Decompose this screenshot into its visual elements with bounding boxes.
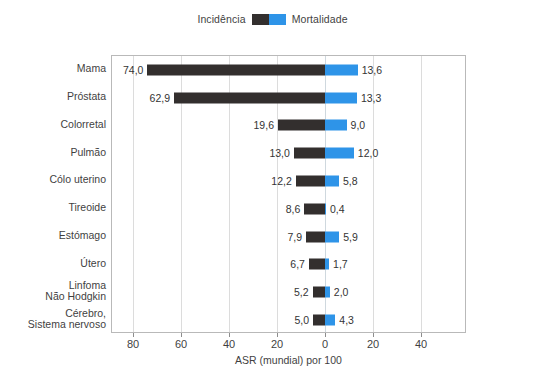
category-label: Tireoide bbox=[0, 202, 106, 214]
incidence-value-label: 6,7 bbox=[290, 259, 305, 270]
mortality-value-label: 1,7 bbox=[333, 259, 348, 270]
category-label: Colorretal bbox=[0, 119, 106, 131]
mortality-bar bbox=[325, 203, 326, 214]
chart-row: 6,71,7 bbox=[112, 251, 465, 279]
x-tick-label: 60 bbox=[175, 338, 187, 350]
mortality-bar bbox=[325, 231, 339, 242]
incidence-bar bbox=[294, 148, 325, 159]
incidence-bar bbox=[147, 64, 325, 75]
legend-label-incidence: Incidência bbox=[197, 13, 245, 25]
mortality-value-label: 13,3 bbox=[361, 92, 381, 103]
mortality-value-label: 0,4 bbox=[330, 204, 345, 215]
mortality-bar bbox=[325, 120, 347, 131]
chart-row: 7,95,9 bbox=[112, 223, 465, 251]
incidence-value-label: 13,0 bbox=[269, 148, 289, 159]
incidence-value-label: 62,9 bbox=[150, 92, 170, 103]
x-tick-mark bbox=[325, 333, 326, 337]
mortality-value-label: 5,9 bbox=[343, 231, 358, 242]
mortality-color-swatch-icon bbox=[269, 14, 286, 25]
chart-legend: Incidência Mortalidade bbox=[0, 13, 545, 25]
legend-label-mortality: Mortalidade bbox=[292, 13, 348, 25]
incidence-bar bbox=[309, 259, 325, 270]
mortality-value-label: 5,8 bbox=[343, 176, 358, 187]
x-tick-label: 80 bbox=[127, 338, 139, 350]
incidence-bar bbox=[313, 287, 325, 298]
incidence-value-label: 5,2 bbox=[294, 287, 309, 298]
chart-row: 8,60,4 bbox=[112, 195, 465, 223]
category-label: Cérebro, Sistema nervoso bbox=[0, 308, 106, 331]
incidence-bar bbox=[174, 92, 325, 103]
legend-swatch-group bbox=[252, 14, 286, 25]
x-tick-mark bbox=[229, 333, 230, 337]
mortality-bar bbox=[325, 64, 358, 75]
figure-caption bbox=[6, 378, 539, 387]
chart-plot-area: 74,013,662,913,319,69,013,012,012,25,88,… bbox=[111, 55, 466, 333]
chart-row: 12,25,8 bbox=[112, 167, 465, 195]
mortality-value-label: 12,0 bbox=[358, 148, 378, 159]
category-label: Mama bbox=[0, 63, 106, 75]
x-tick-label: 20 bbox=[367, 338, 379, 350]
category-label: Útero bbox=[0, 258, 106, 270]
incidence-bar bbox=[313, 315, 325, 326]
mortality-bar bbox=[325, 92, 357, 103]
category-label: Próstata bbox=[0, 91, 106, 103]
category-label: Linfoma Não Hodgkin bbox=[0, 280, 106, 303]
x-tick-mark bbox=[181, 333, 182, 337]
mortality-value-label: 9,0 bbox=[351, 120, 366, 131]
incidence-bar bbox=[278, 120, 325, 131]
x-tick-mark bbox=[277, 333, 278, 337]
incidence-bar bbox=[304, 203, 325, 214]
category-axis-labels: MamaPróstataColorretalPulmãoCólo uterino… bbox=[0, 55, 106, 333]
mortality-bar bbox=[325, 259, 329, 270]
x-tick-mark bbox=[133, 333, 134, 337]
mortality-bar bbox=[325, 176, 339, 187]
chart-row: 19,69,0 bbox=[112, 112, 465, 140]
incidence-bar bbox=[306, 231, 325, 242]
category-label: Pulmão bbox=[0, 147, 106, 159]
x-tick-label: 40 bbox=[415, 338, 427, 350]
mortality-bar bbox=[325, 148, 354, 159]
x-tick-mark bbox=[421, 333, 422, 337]
category-label: Cólo uterino bbox=[0, 174, 106, 186]
incidence-value-label: 8,6 bbox=[286, 204, 301, 215]
mortality-bar bbox=[325, 315, 335, 326]
x-tick-label: 40 bbox=[223, 338, 235, 350]
mortality-value-label: 2,0 bbox=[334, 287, 349, 298]
incidence-value-label: 7,9 bbox=[287, 231, 302, 242]
chart-row: 5,22,0 bbox=[112, 278, 465, 306]
incidence-bar bbox=[296, 176, 325, 187]
category-label: Estómago bbox=[0, 230, 106, 242]
x-tick-label: 20 bbox=[271, 338, 283, 350]
x-tick-label: 0 bbox=[322, 338, 328, 350]
chart-row: 74,013,6 bbox=[112, 56, 465, 84]
incidence-value-label: 5,0 bbox=[294, 315, 309, 326]
incidence-color-swatch-icon bbox=[252, 14, 269, 25]
chart-row: 5,04,3 bbox=[112, 306, 465, 334]
incidence-value-label: 74,0 bbox=[123, 65, 143, 76]
x-axis-ticks: 8060402002040 bbox=[111, 333, 466, 353]
mortality-value-label: 13,6 bbox=[362, 65, 382, 76]
chart-row: 13,012,0 bbox=[112, 139, 465, 167]
x-axis-title: ASR (mundial) por 100 bbox=[111, 354, 466, 366]
mortality-bar bbox=[325, 287, 330, 298]
chart-row: 62,913,3 bbox=[112, 84, 465, 112]
incidence-value-label: 12,2 bbox=[271, 176, 291, 187]
mortality-value-label: 4,3 bbox=[339, 315, 354, 326]
incidence-value-label: 19,6 bbox=[254, 120, 274, 131]
x-tick-mark bbox=[373, 333, 374, 337]
